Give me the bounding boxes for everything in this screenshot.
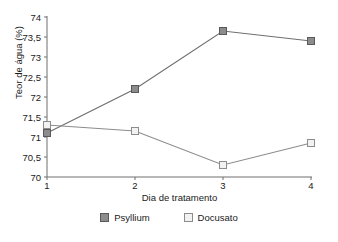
x-axis-tick-label: 2 xyxy=(120,180,150,191)
data-point-psyllium-4[interactable] xyxy=(308,38,315,45)
data-point-docusato-1[interactable] xyxy=(44,122,51,129)
data-point-docusato-4[interactable] xyxy=(308,140,315,147)
series-line-psyllium xyxy=(47,31,311,133)
legend-label: Docusato xyxy=(198,212,238,223)
x-axis-tick-label: 3 xyxy=(208,180,238,191)
x-axis-tick-label: 1 xyxy=(32,180,62,191)
plot-area xyxy=(0,0,338,242)
data-point-psyllium-1[interactable] xyxy=(44,130,51,137)
series-line-docusato xyxy=(47,125,311,165)
data-point-psyllium-2[interactable] xyxy=(132,86,139,93)
x-axis-tick-label: 4 xyxy=(296,180,326,191)
chart-container: Teor de água (%) 7473,57372,57271,57170,… xyxy=(0,0,338,242)
filled-square-swatch xyxy=(100,213,109,222)
legend-label: Psyllium xyxy=(114,212,149,223)
chart-legend: PsylliumDocusato xyxy=(0,212,338,223)
x-axis-title: Dia de tratamento xyxy=(47,192,312,203)
data-point-docusato-3[interactable] xyxy=(220,162,227,169)
legend-item-docusato[interactable]: Docusato xyxy=(184,212,238,223)
data-point-psyllium-3[interactable] xyxy=(220,28,227,35)
open-square-swatch xyxy=(184,213,193,222)
data-point-docusato-2[interactable] xyxy=(132,128,139,135)
legend-item-psyllium[interactable]: Psyllium xyxy=(100,212,149,223)
